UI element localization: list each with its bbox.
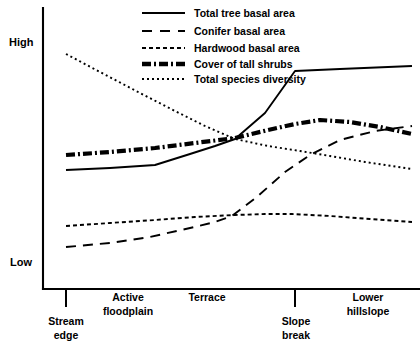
- legend-label-total-tree-basal-area: Total tree basal area: [194, 7, 295, 19]
- x-axis-label-lower-hillslope: Lower hillslope: [347, 291, 390, 317]
- chart-legend: Total tree basal area Conifer basal area…: [142, 7, 306, 85]
- legend-item-cover-of-tall-shrubs: Cover of tall shrubs: [142, 58, 293, 70]
- series-conifer-basal-area: [66, 126, 412, 247]
- x-axis-label-active-floodplain: Active floodplain: [103, 291, 153, 317]
- y-axis-label-high: High: [9, 36, 34, 48]
- x-axis-label-stream-edge-line1: Stream: [48, 315, 84, 327]
- legend-label-cover-of-tall-shrubs: Cover of tall shrubs: [194, 58, 293, 70]
- series-cover-of-tall-shrubs: [66, 120, 412, 155]
- x-axis-label-lower-hillslope-line2: hillslope: [347, 305, 390, 317]
- x-axis-label-active-floodplain-line1: Active: [112, 291, 144, 303]
- y-axis-label-low: Low: [10, 256, 32, 268]
- legend-label-conifer-basal-area: Conifer basal area: [194, 25, 285, 37]
- x-axis-label-slope-break: Slope break: [282, 315, 311, 341]
- legend-label-hardwood-basal-area: Hardwood basal area: [194, 42, 300, 54]
- legend-item-total-species-diversity: Total species diversity: [142, 73, 306, 85]
- x-axis-label-slope-break-line1: Slope: [282, 315, 311, 327]
- line-chart-svg: Total tree basal area Conifer basal area…: [0, 0, 420, 348]
- legend-item-hardwood-basal-area: Hardwood basal area: [142, 42, 300, 54]
- x-axis-label-active-floodplain-line2: floodplain: [103, 305, 153, 317]
- y-axis-labels: High Low: [9, 36, 34, 268]
- x-axis-label-stream-edge-line2: edge: [54, 329, 79, 341]
- x-axis-label-slope-break-line2: break: [282, 329, 310, 341]
- chart-figure: Total tree basal area Conifer basal area…: [0, 0, 420, 348]
- x-axis-labels: Stream edge Active floodplain Terrace Sl…: [48, 291, 389, 341]
- x-axis-label-terrace: Terrace: [188, 291, 225, 303]
- legend-item-conifer-basal-area: Conifer basal area: [142, 25, 285, 37]
- x-axis-label-lower-hillslope-line1: Lower: [353, 291, 384, 303]
- legend-item-total-tree-basal-area: Total tree basal area: [142, 7, 295, 19]
- x-axis-label-stream-edge: Stream edge: [48, 315, 84, 341]
- series-hardwood-basal-area: [66, 214, 412, 226]
- legend-label-total-species-diversity: Total species diversity: [194, 73, 306, 85]
- x-axis-label-terrace-text: Terrace: [188, 291, 225, 303]
